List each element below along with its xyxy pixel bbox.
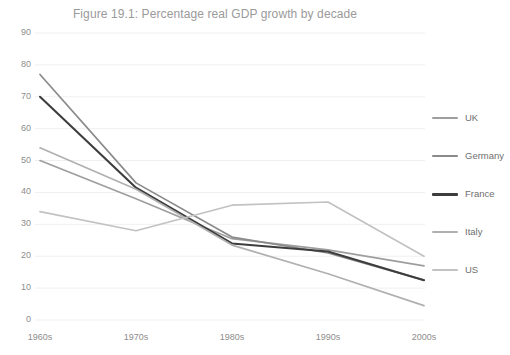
- legend-item-label: US: [465, 264, 478, 275]
- legend-swatch-icon: [432, 231, 458, 233]
- legend-swatch-icon: [432, 193, 458, 196]
- line-chart-plot-area: [0, 0, 510, 355]
- series-line-italy: [40, 148, 424, 306]
- x-axis-tick-label: 1990s: [298, 333, 358, 342]
- x-axis-tick-label: 2000s: [394, 333, 454, 342]
- x-axis-tick-label: 1970s: [106, 333, 166, 342]
- chart-container: Figure 19.1: Percentage real GDP growth …: [0, 0, 510, 355]
- y-axis-tick-label: 40: [5, 187, 31, 196]
- series-line-germany: [40, 74, 424, 280]
- legend-item-label: UK: [465, 112, 478, 123]
- x-axis-tick-label: 1980s: [202, 333, 262, 342]
- y-axis-tick-label: 10: [5, 283, 31, 292]
- legend-item-label: France: [465, 188, 495, 199]
- legend-swatch-icon: [432, 155, 458, 157]
- series-line-france: [40, 97, 424, 280]
- series-line-uk: [40, 161, 424, 266]
- legend-swatch-icon: [432, 117, 458, 119]
- series-lines-group: [40, 74, 424, 305]
- y-axis-tick-label: 30: [5, 219, 31, 228]
- y-axis-tick-label: 70: [5, 92, 31, 101]
- y-axis-tick-label: 50: [5, 156, 31, 165]
- gridlines-group: [35, 33, 425, 320]
- y-axis-tick-label: 0: [5, 315, 31, 324]
- series-line-us: [40, 202, 424, 256]
- legend-swatch-icon: [432, 269, 458, 271]
- x-axis-tick-label: 1960s: [10, 333, 70, 342]
- legend-item-label: Germany: [465, 150, 504, 161]
- y-axis-tick-label: 80: [5, 60, 31, 69]
- y-axis-tick-label: 20: [5, 251, 31, 260]
- y-axis-tick-label: 90: [5, 28, 31, 37]
- y-axis-tick-label: 60: [5, 124, 31, 133]
- legend-item-label: Italy: [465, 226, 482, 237]
